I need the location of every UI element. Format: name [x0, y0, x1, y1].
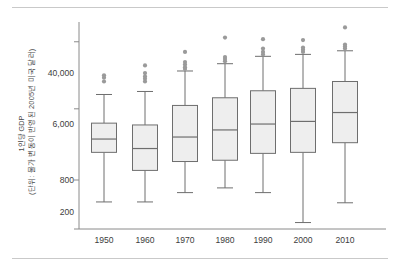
box-iqr	[173, 105, 198, 161]
y-tick-label: 200	[20, 208, 74, 217]
outlier-point	[183, 60, 187, 64]
box-iqr	[251, 91, 276, 154]
x-tick-label: 1990	[243, 236, 283, 245]
x-tick-label: 1970	[165, 236, 205, 245]
outlier-point	[301, 45, 305, 49]
outlier-point	[223, 36, 227, 40]
x-tick-label: 2010	[325, 236, 365, 245]
outlier-point	[261, 46, 265, 50]
outlier-point	[143, 63, 147, 67]
outlier-point	[343, 42, 347, 46]
box-plot-item	[213, 36, 238, 188]
box-iqr	[92, 123, 117, 152]
outlier-point	[183, 50, 187, 54]
outlier-point	[223, 55, 227, 59]
box-plot-item	[291, 38, 316, 223]
box-plot-item	[173, 50, 198, 193]
box-iqr	[213, 98, 238, 160]
boxplot-figure: (단위: 물가 변동이 반영된 2005년 미국 달러) 1인당 GDP 40,…	[0, 0, 400, 270]
box-series	[92, 25, 358, 222]
outlier-point	[301, 38, 305, 42]
x-tick-label: 2000	[283, 236, 323, 245]
box-iqr	[291, 88, 316, 152]
outlier-point	[102, 73, 106, 77]
box-plot-item	[333, 25, 358, 202]
y-tick-label: 40,000	[20, 69, 74, 78]
outlier-point	[102, 79, 106, 83]
box-plot-item	[133, 63, 158, 202]
outlier-point	[261, 37, 265, 41]
x-tick-label: 1950	[84, 236, 124, 245]
box-plot-item	[92, 73, 117, 202]
outlier-point	[343, 25, 347, 29]
x-tick-label: 1980	[205, 236, 245, 245]
y-tick-label: 6,000	[20, 120, 74, 129]
y-tick-label-group: 40,000 6,000 800 200	[14, 0, 74, 270]
x-tick-label: 1960	[125, 236, 165, 245]
box-iqr	[133, 125, 158, 170]
outlier-point	[143, 71, 147, 75]
box-plot-item	[251, 37, 276, 192]
y-tick-label: 800	[20, 176, 74, 185]
